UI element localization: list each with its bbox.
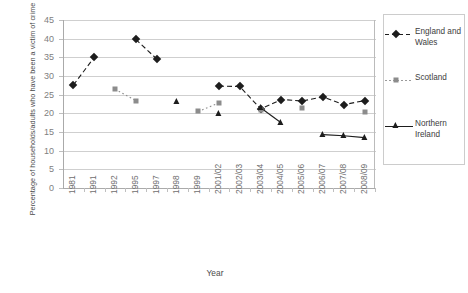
x-axis-title: Year bbox=[150, 268, 280, 278]
x-tick-mark bbox=[271, 188, 272, 192]
x-tick-mark bbox=[229, 188, 230, 192]
data-point-triangle bbox=[215, 110, 221, 116]
data-point-triangle bbox=[340, 132, 346, 138]
data-point-triangle bbox=[361, 134, 367, 140]
x-tick-mark bbox=[375, 188, 376, 192]
y-tick-mark bbox=[59, 57, 63, 58]
y-tick-mark bbox=[59, 20, 63, 21]
legend-label-northern-ireland: Northern Ireland bbox=[414, 119, 466, 140]
y-tick-mark bbox=[59, 132, 63, 133]
legend-label-england-and-wales: England and Wales bbox=[414, 27, 466, 48]
data-point-triangle bbox=[174, 98, 180, 104]
y-tick-mark bbox=[59, 169, 63, 170]
x-tick-mark bbox=[188, 188, 189, 192]
y-tick-mark bbox=[59, 113, 63, 114]
x-tick-mark bbox=[333, 188, 334, 192]
x-tick-mark bbox=[250, 188, 251, 192]
chart-legend: England and Wales Scotland Northern Irel… bbox=[383, 14, 465, 165]
data-point-square bbox=[113, 87, 118, 92]
y-tick-mark bbox=[59, 39, 63, 40]
x-tick-mark bbox=[292, 188, 293, 192]
data-point-square bbox=[196, 109, 201, 114]
legend-item-scotland[interactable]: Scotland bbox=[384, 73, 466, 86]
data-point-square bbox=[362, 109, 367, 114]
x-tick-mark bbox=[125, 188, 126, 192]
chart-container: Percentage of households/adults who have… bbox=[0, 0, 468, 293]
data-point-triangle bbox=[319, 131, 325, 137]
series-line-0 bbox=[73, 57, 94, 85]
legend-item-northern-ireland[interactable]: Northern Ireland bbox=[384, 119, 466, 140]
legend-item-england-and-wales[interactable]: England and Wales bbox=[384, 27, 466, 48]
series-line-0 bbox=[136, 39, 157, 58]
data-point-square bbox=[217, 100, 222, 105]
data-point-triangle bbox=[257, 104, 263, 110]
x-tick-mark bbox=[354, 188, 355, 192]
y-tick-mark bbox=[59, 76, 63, 77]
x-tick-mark bbox=[167, 188, 168, 192]
data-point-square bbox=[133, 98, 138, 103]
data-point-square bbox=[300, 106, 305, 111]
x-tick-mark bbox=[84, 188, 85, 192]
x-tick-mark bbox=[105, 188, 106, 192]
y-tick-mark bbox=[59, 95, 63, 96]
x-tick-mark bbox=[209, 188, 210, 192]
x-tick-mark bbox=[146, 188, 147, 192]
legend-key-square-dotted bbox=[384, 74, 414, 86]
y-tick-mark bbox=[59, 151, 63, 152]
legend-key-triangle-solid bbox=[384, 120, 414, 132]
x-tick-mark bbox=[313, 188, 314, 192]
y-tick-mark bbox=[59, 188, 63, 189]
legend-label-scotland: Scotland bbox=[414, 73, 447, 84]
data-point-triangle bbox=[278, 119, 284, 125]
legend-key-diamond-dashed bbox=[384, 28, 414, 40]
